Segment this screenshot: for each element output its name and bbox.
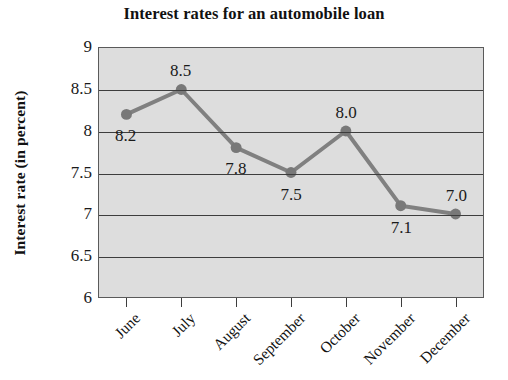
x-tick-label: November [361,310,419,368]
y-tick-label: 8 [42,122,98,139]
x-tick [401,298,402,307]
y-tick-label: 6.5 [42,247,98,264]
x-axis: JuneJulyAugustSeptemberOctoberNovemberDe… [98,298,484,380]
y-axis-tick-labels: 98.587.576.56 [34,0,98,380]
data-point-label: 7.5 [280,186,301,203]
data-point-marker [450,209,461,220]
data-point-label: 8.2 [115,127,136,144]
y-tick-label: 7.5 [42,164,98,181]
y-tick-label: 7 [42,205,98,222]
x-tick-label: October [317,310,364,357]
line-series [99,48,483,297]
x-tick-label: August [210,310,253,353]
x-tick-label: September [250,310,308,368]
x-tick [456,298,457,307]
x-tick-label: June [111,310,142,341]
y-tick-label: 6 [42,289,98,306]
x-tick [236,298,237,307]
y-axis-title-label: Interest rate (in percent) [11,90,29,255]
x-tick-label: July [168,310,198,340]
data-point-marker [286,167,297,178]
y-tick-label: 9 [42,38,98,55]
chart-figure: Interest rates for an automobile loan In… [0,0,508,380]
data-point-label: 7.1 [391,219,412,236]
gridline [99,132,483,133]
data-point-marker [231,142,242,153]
x-tick-label: December [417,310,473,366]
y-axis-title: Interest rate (in percent) [6,47,34,298]
x-tick [291,298,292,307]
data-point-label: 8.0 [336,104,357,121]
gridline [99,257,483,258]
gridline [99,215,483,216]
gridline [99,90,483,91]
plot-area [98,47,484,298]
data-point-label: 8.5 [170,62,191,79]
gridline [99,174,483,175]
x-tick [346,298,347,307]
data-point-marker [121,109,132,120]
data-point-marker [395,200,406,211]
y-tick-label: 8.5 [42,80,98,97]
data-point-label: 7.8 [225,160,246,177]
x-tick [126,298,127,307]
x-tick [181,298,182,307]
data-point-label: 7.0 [446,187,467,204]
